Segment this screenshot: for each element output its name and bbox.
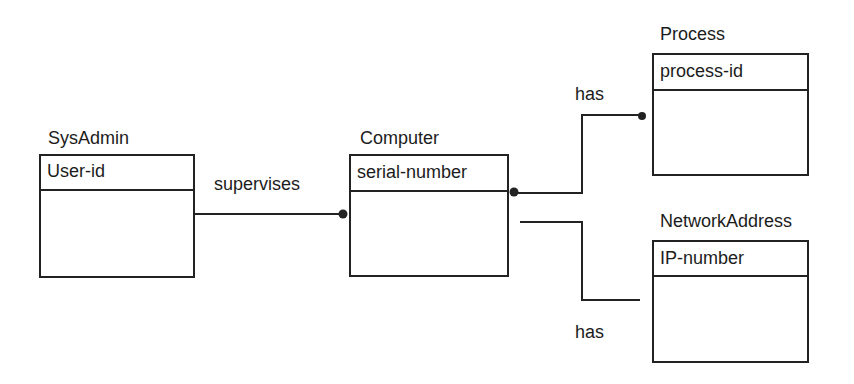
has-networkaddress-connector: [520, 222, 640, 300]
relationship-label-has-networkaddress: has: [575, 322, 604, 342]
supervises-connector: [194, 210, 348, 219]
entity-title-process: Process: [660, 24, 725, 44]
entity-networkaddress: IP-number: [652, 240, 809, 363]
entity-key-user-id: User-id: [41, 156, 193, 191]
cardinality-dot-icon: [339, 210, 348, 219]
cardinality-dot-icon: [638, 112, 646, 120]
entity-sysadmin: User-id: [39, 154, 195, 278]
entity-title-computer: Computer: [360, 128, 439, 148]
entity-key-serial-number: serial-number: [351, 156, 507, 192]
entity-title-sysadmin: SysAdmin: [48, 128, 129, 148]
entity-computer: serial-number: [349, 154, 509, 277]
entity-process: process-id: [652, 53, 809, 176]
relationship-label-has-process: has: [575, 84, 604, 104]
entity-key-ip-number: IP-number: [654, 242, 807, 277]
entity-title-networkaddress: NetworkAddress: [660, 211, 792, 231]
relationship-label-supervises: supervises: [214, 174, 300, 194]
has-process-connector: [510, 112, 647, 197]
entity-key-process-id: process-id: [654, 55, 807, 91]
